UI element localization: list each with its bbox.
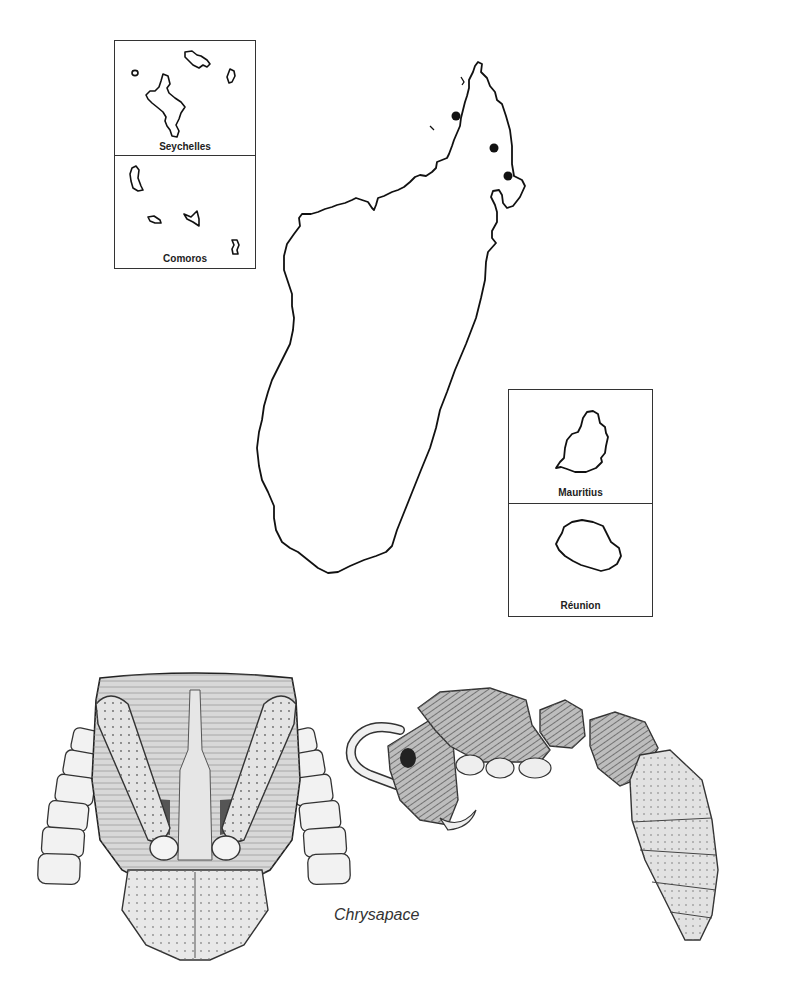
record-point bbox=[490, 144, 499, 153]
madagascar-map-outline bbox=[0, 0, 785, 600]
genus-caption: Chrysapace bbox=[334, 906, 419, 924]
record-point bbox=[504, 172, 513, 181]
record-point bbox=[452, 112, 461, 121]
inset-label-reunion: Réunion bbox=[509, 600, 652, 611]
ant-head-frontal-illustration bbox=[30, 660, 360, 990]
ant-body-lateral-illustration bbox=[340, 650, 740, 990]
